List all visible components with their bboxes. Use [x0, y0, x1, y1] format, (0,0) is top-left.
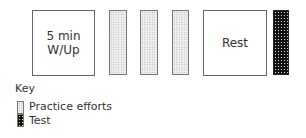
legend-label-test: Test — [29, 114, 51, 127]
rest-label: Rest — [222, 36, 248, 50]
test-bar — [273, 10, 289, 75]
warmup-label-line2: W/Up — [46, 43, 80, 57]
key-title: Key — [15, 82, 35, 95]
legend-label-practice: Practice efforts — [29, 100, 112, 113]
warmup-block: 5 min W/Up — [32, 10, 95, 76]
practice-effort-bar-1 — [109, 10, 127, 75]
practice-effort-bar-3 — [172, 10, 189, 75]
practice-swatch-icon — [17, 101, 24, 114]
test-swatch-icon — [17, 114, 24, 127]
warmup-label-line1: 5 min — [46, 29, 80, 43]
practice-effort-bar-2 — [140, 10, 158, 75]
rest-block: Rest — [203, 10, 267, 76]
